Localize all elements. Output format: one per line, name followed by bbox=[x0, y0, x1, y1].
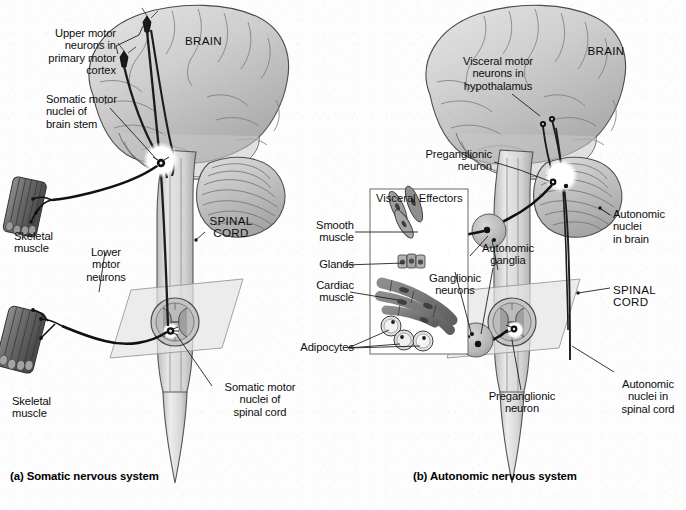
label-somatic-motor-nuclei-spinal-cord: Somatic motor nuclei of spinal cord bbox=[213, 381, 307, 418]
label-autonomic-ganglia: Autonomic ganglia bbox=[472, 242, 544, 267]
label-spinal-cord-a: SPINAL CORD bbox=[205, 215, 257, 240]
label-brain-b: BRAIN bbox=[578, 45, 634, 57]
figure-canvas: Upper motor neurons in primary motor cor… bbox=[0, 0, 686, 510]
cord-taper-a bbox=[163, 392, 187, 483]
caption-panel-b: (b) Autonomic nervous system bbox=[413, 470, 577, 482]
brain-stem-b bbox=[494, 150, 533, 402]
label-glands: Glands bbox=[294, 258, 354, 270]
spinal-cord-pointer-dot-a bbox=[194, 238, 197, 241]
lower-motor-axon-upper-a bbox=[52, 166, 157, 200]
label-visceral-motor-neurons: Visceral motor neurons in hypothalamus bbox=[452, 55, 544, 92]
label-brain-a: BRAIN bbox=[185, 35, 245, 47]
autonomic-nuclei-pointer-dot-b bbox=[598, 206, 601, 209]
spinal-cord-pointer-dot-b bbox=[576, 291, 579, 294]
label-somatic-motor-nuclei-brain-stem: Somatic motor nuclei of brain stem bbox=[46, 93, 134, 130]
glands-graphic bbox=[398, 254, 425, 268]
visceral-effectors-title: Visceral Effectors bbox=[376, 192, 463, 204]
cord-cross-section-a bbox=[151, 298, 199, 346]
label-skeletal-muscle-lower: Skeletal muscle bbox=[12, 395, 74, 420]
label-spinal-cord-b: SPINAL CORD bbox=[613, 284, 667, 309]
label-lower-motor-neurons: Lower motor neurons bbox=[78, 246, 134, 283]
label-upper-motor-neurons: Upper motor neurons in primary motor cor… bbox=[20, 27, 116, 77]
label-ganglionic-neurons: Ganglionic neurons bbox=[420, 272, 490, 297]
label-autonomic-nuclei-in-spinal-cord: Autonomic nuclei in spinal cord bbox=[612, 378, 684, 415]
label-cardiac-muscle: Cardiac muscle bbox=[294, 279, 354, 304]
label-preganglionic-neuron-upper: Preganglionic neuron bbox=[410, 148, 492, 173]
label-preganglionic-neuron-lower: Preganglionic neuron bbox=[478, 390, 566, 415]
label-autonomic-nuclei-in-brain: Autonomic nuclei in brain bbox=[613, 208, 677, 245]
skeletal-muscle-lower-graphic bbox=[0, 305, 47, 374]
label-skeletal-muscle-upper: Skeletal muscle bbox=[14, 230, 76, 255]
caption-panel-a: (a) Somatic nervous system bbox=[10, 470, 159, 482]
panel-divider bbox=[343, 0, 344, 510]
label-smooth-muscle: Smooth muscle bbox=[294, 219, 354, 244]
